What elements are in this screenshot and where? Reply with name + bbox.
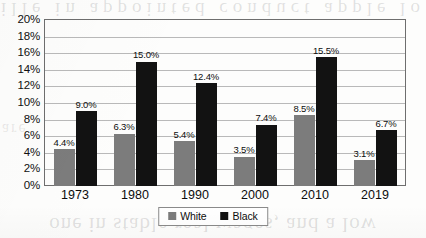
legend-entry-black[interactable]: Black bbox=[221, 211, 258, 222]
bar-black-1973[interactable] bbox=[76, 111, 97, 186]
bar-group: 3.1%6.7% bbox=[345, 20, 405, 186]
bar-slot: 3.5% bbox=[234, 20, 255, 186]
bar-group: 8.5%15.5% bbox=[285, 20, 345, 186]
grouped-bar-chart: 20%18%16%14%12%10%8%6%4%2%0% 4.4%9.0%6.3… bbox=[0, 0, 426, 238]
bar-value-label: 12.4% bbox=[183, 72, 229, 82]
x-axis-tick-label: 1973 bbox=[45, 189, 105, 207]
legend-swatch-icon bbox=[168, 212, 176, 220]
bar-slot: 6.3% bbox=[114, 20, 135, 186]
bar-series-container: 4.4%9.0%6.3%15.0%5.4%12.4%3.5%7.4%8.5%15… bbox=[45, 20, 405, 186]
legend-label: Black bbox=[233, 211, 258, 222]
bar-group: 5.4%12.4% bbox=[165, 20, 225, 186]
bar-value-label: 7.4% bbox=[243, 113, 289, 123]
bar-value-label: 6.7% bbox=[363, 119, 409, 129]
x-axis-tick-label: 2010 bbox=[285, 189, 345, 207]
bar-white-2000[interactable] bbox=[234, 157, 255, 186]
bar-white-1990[interactable] bbox=[174, 141, 195, 186]
x-axis: 197319801990200020102019 bbox=[45, 189, 405, 207]
y-axis-tick-label: 4% bbox=[0, 147, 40, 159]
bar-white-2010[interactable] bbox=[294, 115, 315, 186]
y-axis-tick-label: 14% bbox=[0, 64, 40, 76]
bar-value-label: 15.5% bbox=[303, 46, 349, 56]
bar-black-1980[interactable] bbox=[136, 62, 157, 187]
x-axis-tick-label: 1980 bbox=[105, 189, 165, 207]
x-axis-tick-label: 2019 bbox=[345, 189, 405, 207]
bar-value-label: 15.0% bbox=[123, 50, 169, 60]
y-axis: 20%18%16%14%12%10%8%6%4%2%0% bbox=[0, 19, 40, 186]
bar-slot: 9.0% bbox=[76, 20, 97, 186]
bar-white-1973[interactable] bbox=[54, 149, 75, 186]
bar-slot: 3.1% bbox=[354, 20, 375, 186]
bar-black-1990[interactable] bbox=[196, 83, 217, 186]
bar-group: 6.3%15.0% bbox=[105, 20, 165, 186]
bar-slot: 15.0% bbox=[136, 20, 157, 186]
bar-white-2019[interactable] bbox=[354, 160, 375, 186]
y-axis-tick-label: 16% bbox=[0, 47, 40, 59]
legend-entry-white[interactable]: White bbox=[168, 211, 206, 222]
y-axis-tick-label: 10% bbox=[0, 97, 40, 109]
bar-value-label: 9.0% bbox=[63, 100, 109, 110]
y-axis-tick-label: 12% bbox=[0, 81, 40, 93]
bar-slot: 5.4% bbox=[174, 20, 195, 186]
bar-group: 3.5%7.4% bbox=[225, 20, 285, 186]
legend-label: White bbox=[180, 211, 206, 222]
y-axis-tick-label: 0% bbox=[0, 180, 40, 192]
bar-slot: 7.4% bbox=[256, 20, 277, 186]
legend-swatch-icon bbox=[221, 212, 229, 220]
x-axis-tick-label: 2000 bbox=[225, 189, 285, 207]
y-axis-tick-label: 8% bbox=[0, 114, 40, 126]
bar-slot: 15.5% bbox=[316, 20, 337, 186]
bar-slot: 12.4% bbox=[196, 20, 217, 186]
bar-black-2019[interactable] bbox=[376, 130, 397, 186]
y-axis-tick-label: 2% bbox=[0, 164, 40, 176]
chart-legend: WhiteBlack bbox=[158, 207, 268, 226]
y-axis-tick-label: 6% bbox=[0, 130, 40, 142]
bar-black-2000[interactable] bbox=[256, 125, 277, 186]
x-axis-tick-label: 1990 bbox=[165, 189, 225, 207]
y-axis-tick-label: 20% bbox=[0, 14, 40, 26]
bar-white-1980[interactable] bbox=[114, 134, 135, 186]
bar-black-2010[interactable] bbox=[316, 57, 337, 186]
bar-slot: 6.7% bbox=[376, 20, 397, 186]
bar-group: 4.4%9.0% bbox=[45, 20, 105, 186]
y-axis-tick-label: 18% bbox=[0, 31, 40, 43]
